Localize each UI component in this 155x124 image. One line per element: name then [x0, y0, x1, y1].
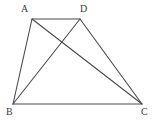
vertex-label-C: C: [141, 107, 148, 117]
figure-canvas: [0, 0, 155, 124]
vertex-label-D: D: [80, 4, 87, 14]
vertex-label-B: B: [6, 107, 13, 117]
vertex-label-A: A: [21, 4, 28, 14]
edge-AC-diagonal: [32, 19, 142, 104]
edge-DC: [80, 19, 142, 104]
edge-group: [13, 19, 142, 104]
geometry-figure: A D B C: [0, 0, 155, 124]
